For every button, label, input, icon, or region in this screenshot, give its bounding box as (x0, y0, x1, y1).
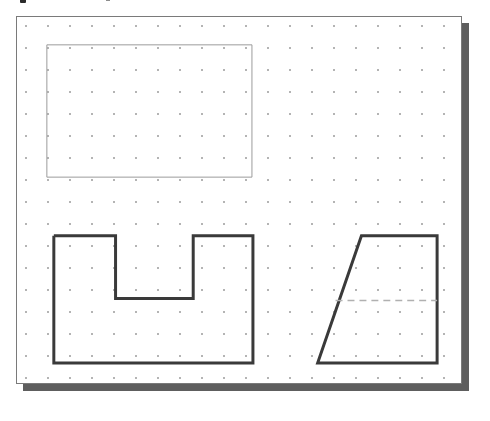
u-channel-profile[interactable] (54, 236, 253, 363)
rectangle-outline[interactable] (47, 45, 252, 177)
cut-off-mark-left-icon (20, 0, 26, 3)
drawing-stage (0, 0, 490, 421)
cut-off-mark-right-icon (106, 0, 110, 1)
trapezoid-profile[interactable] (318, 236, 437, 363)
drawing-canvas[interactable] (16, 16, 462, 384)
vector-shape-layer (17, 17, 461, 383)
